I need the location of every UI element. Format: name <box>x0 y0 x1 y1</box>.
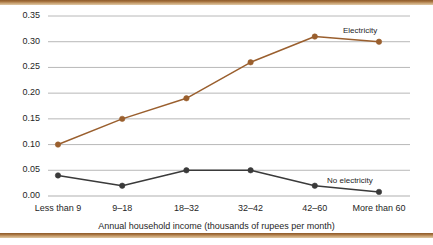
data-point <box>376 189 381 194</box>
y-axis-tick-label: 0.25 <box>6 61 40 71</box>
data-point <box>55 173 60 178</box>
data-point <box>312 34 317 39</box>
chart-figure: 0.000.050.100.150.200.250.300.35 Less th… <box>0 0 433 245</box>
data-point <box>120 116 125 121</box>
y-axis-tick-label: 0.00 <box>6 190 40 200</box>
y-axis-tick-label: 0.05 <box>6 164 40 174</box>
y-axis-tick-label: 0.10 <box>6 139 40 149</box>
series-line-electricity <box>58 37 379 145</box>
y-axis-tick-label: 0.20 <box>6 87 40 97</box>
data-point <box>184 168 189 173</box>
gridlines <box>48 16 410 196</box>
y-axis-tick-label: 0.15 <box>6 113 40 123</box>
data-point <box>184 96 189 101</box>
x-axis-title: Annual household income (thousands of ru… <box>0 221 433 231</box>
data-point <box>376 39 381 44</box>
series-lines <box>58 37 379 192</box>
series-annotation-electricity: Electricity <box>343 26 377 35</box>
y-axis-tick-label: 0.35 <box>6 10 40 20</box>
data-point <box>120 183 125 188</box>
data-point <box>312 183 317 188</box>
data-point <box>248 168 253 173</box>
x-axis-tick-label: More than 60 <box>341 203 417 213</box>
data-point <box>248 60 253 65</box>
y-axis-tick-label: 0.30 <box>6 36 40 46</box>
series-annotation-no-electricity: No electricity <box>327 176 373 185</box>
data-point <box>55 142 60 147</box>
